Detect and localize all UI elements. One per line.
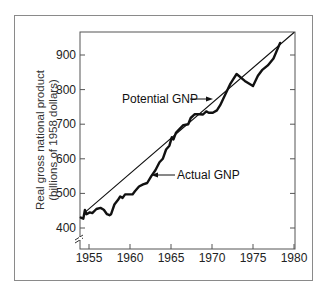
y-axis-label: Real gross national product (billions of… — [34, 69, 59, 210]
y-tick-label: 800 — [56, 83, 76, 97]
x-tick-label: 1975 — [240, 251, 267, 265]
series-lines — [81, 33, 294, 219]
x-tick-label: 1955 — [76, 251, 103, 265]
y-axis-label-line1: Real gross national product — [34, 69, 46, 210]
x-tick-label: 1980 — [281, 251, 308, 265]
gnp-chart: 4005006007008009001955196019651970197519… — [0, 0, 325, 297]
y-tick-label: 900 — [56, 48, 76, 62]
y-tick-label: 600 — [56, 152, 76, 166]
plot-border — [80, 32, 295, 249]
axis-ticks: 4005006007008009001955196019651970197519… — [56, 48, 308, 265]
annotation-potential-gnp: Potential GNP — [122, 92, 213, 106]
potential-gnp-label: Potential GNP — [122, 92, 198, 106]
y-tick-label: 500 — [56, 186, 76, 200]
axis-break-gap — [79, 237, 82, 240]
potential-arrowhead-icon — [206, 97, 213, 102]
plot-area — [75, 32, 295, 249]
y-tick-label: 400 — [56, 221, 76, 235]
actual-gnp-label: Actual GNP — [177, 168, 240, 182]
x-tick-label: 1960 — [117, 251, 144, 265]
annotation-actual-gnp: Actual GNP — [151, 168, 240, 182]
y-tick-label: 700 — [56, 117, 76, 131]
x-tick-label: 1970 — [199, 251, 226, 265]
x-tick-label: 1965 — [158, 251, 185, 265]
y-axis-label-line2: (billions of 1958 dollars) — [47, 79, 59, 201]
